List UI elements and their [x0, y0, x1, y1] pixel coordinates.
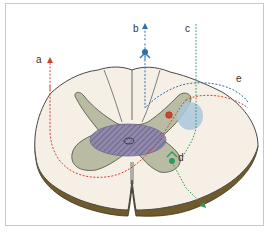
label-e: e: [236, 74, 242, 84]
label-b: b: [133, 24, 139, 34]
label-c: c: [185, 24, 190, 34]
green-neuron: [169, 158, 175, 164]
spinal-cord-diagram: [0, 0, 272, 232]
red-neuron: [166, 112, 173, 119]
central-zone: [90, 124, 166, 156]
label-a: a: [36, 55, 42, 65]
blue-neuron: [142, 49, 148, 55]
label-d: d: [178, 153, 184, 163]
